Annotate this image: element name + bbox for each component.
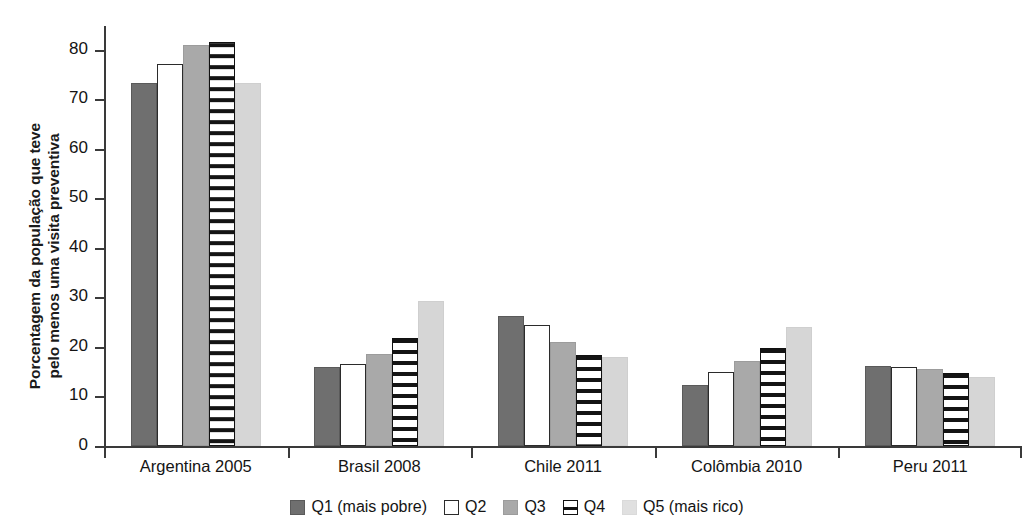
y-axis-tick-label: 70 xyxy=(69,88,88,108)
bar-group: Colômbia 2010 xyxy=(655,25,839,446)
bar-q5[interactable] xyxy=(235,83,261,446)
bar-group: Brasil 2008 xyxy=(288,25,472,446)
y-axis-tick-label: 40 xyxy=(69,237,88,257)
bar-q2[interactable] xyxy=(524,325,550,446)
x-axis-category-label: Brasil 2008 xyxy=(288,457,472,476)
bar-q4[interactable] xyxy=(943,373,969,446)
bar-q3[interactable] xyxy=(550,342,576,446)
bar-group-bars xyxy=(655,25,839,446)
plot-area: 01020304050607080 Argentina 2005Brasil 2… xyxy=(104,26,1022,447)
bar-q2[interactable] xyxy=(157,64,183,446)
y-axis-tick: 0 xyxy=(95,446,104,448)
bar-chart-figure: Porcentagem da população que teve pelo m… xyxy=(0,0,1034,529)
legend-swatch-q1 xyxy=(290,500,305,515)
y-axis-tick-label: 30 xyxy=(69,286,88,306)
bar-q3[interactable] xyxy=(734,361,760,446)
bar-group: Argentina 2005 xyxy=(104,25,288,446)
legend-label: Q1 (mais pobre) xyxy=(311,498,427,516)
y-axis-tick: 20 xyxy=(95,347,104,349)
y-axis-title-line-1: Porcentagem da população que teve xyxy=(26,123,45,389)
bar-q1[interactable] xyxy=(865,366,891,446)
bar-q4[interactable] xyxy=(209,42,235,446)
legend-item[interactable]: Q4 xyxy=(563,498,605,516)
y-axis-tick: 70 xyxy=(95,99,104,101)
bar-q1[interactable] xyxy=(131,83,157,446)
legend-label: Q5 (mais rico) xyxy=(643,498,743,516)
legend-item[interactable]: Q1 (mais pobre) xyxy=(290,498,427,516)
bar-q5[interactable] xyxy=(418,301,444,446)
bar-q1[interactable] xyxy=(682,385,708,446)
bar-q3[interactable] xyxy=(917,369,943,446)
bar-group-bars xyxy=(104,25,288,446)
y-axis-tick-label: 80 xyxy=(69,39,88,59)
bar-q4[interactable] xyxy=(760,348,786,446)
y-axis-tick-label: 0 xyxy=(79,435,88,455)
legend-swatch-q3 xyxy=(503,500,518,515)
bar-q5[interactable] xyxy=(786,327,812,446)
legend-item[interactable]: Q5 (mais rico) xyxy=(622,498,743,516)
bar-q2[interactable] xyxy=(891,367,917,446)
bar-group-bars xyxy=(471,25,655,446)
bar-group: Chile 2011 xyxy=(471,25,655,446)
y-axis-tick: 80 xyxy=(95,50,104,52)
bar-q3[interactable] xyxy=(366,354,392,446)
legend-label: Q3 xyxy=(524,498,545,516)
x-axis-category-label: Chile 2011 xyxy=(471,457,655,476)
bar-q4[interactable] xyxy=(576,355,602,446)
y-axis-title: Porcentagem da população que teve pelo m… xyxy=(17,36,73,476)
bar-q5[interactable] xyxy=(969,377,995,446)
legend-swatch-q2 xyxy=(444,500,459,515)
chart-legend: Q1 (mais pobre)Q2Q3Q4Q5 (mais rico) xyxy=(0,498,1034,516)
bar-q1[interactable] xyxy=(498,316,524,446)
x-axis-category-label: Colômbia 2010 xyxy=(655,457,839,476)
y-axis-tick: 50 xyxy=(95,198,104,200)
y-axis-tick: 60 xyxy=(95,149,104,151)
y-axis-tick: 40 xyxy=(95,248,104,250)
legend-swatch-q4 xyxy=(563,500,578,515)
bar-group-bars xyxy=(288,25,472,446)
bar-group: Peru 2011 xyxy=(838,25,1022,446)
y-axis-tick-label: 60 xyxy=(69,138,88,158)
y-axis-tick: 30 xyxy=(95,297,104,299)
bar-q3[interactable] xyxy=(183,45,209,446)
legend-swatch-q5 xyxy=(622,500,637,515)
bar-q5[interactable] xyxy=(602,357,628,446)
x-axis-line xyxy=(104,446,1022,448)
bar-group-bars xyxy=(838,25,1022,446)
y-axis-tick: 10 xyxy=(95,396,104,398)
y-axis-tick-label: 50 xyxy=(69,187,88,207)
legend-label: Q2 xyxy=(465,498,486,516)
bar-q1[interactable] xyxy=(314,367,340,446)
bar-q2[interactable] xyxy=(340,364,366,446)
y-axis-tick-label: 20 xyxy=(69,336,88,356)
y-axis-tick-label: 10 xyxy=(69,385,88,405)
legend-item[interactable]: Q2 xyxy=(444,498,486,516)
bar-q2[interactable] xyxy=(708,372,734,446)
x-axis-category-label: Argentina 2005 xyxy=(104,457,288,476)
legend-label: Q4 xyxy=(584,498,605,516)
bar-q4[interactable] xyxy=(392,338,418,446)
x-axis-category-label: Peru 2011 xyxy=(838,457,1022,476)
legend-item[interactable]: Q3 xyxy=(503,498,545,516)
y-axis-title-line-2: pelo menos uma visita preventiva xyxy=(45,134,64,379)
